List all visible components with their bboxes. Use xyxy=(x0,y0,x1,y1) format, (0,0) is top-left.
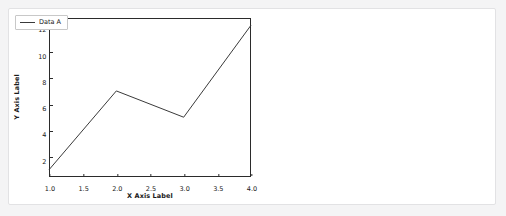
x-tick-1.5: 1.5 xyxy=(78,176,88,195)
figure-card: 246810121.01.52.02.53.03.54.0 Y Axis Lab… xyxy=(8,8,496,205)
legend-label-data-a: Data A xyxy=(39,19,61,26)
x-tick-2.0: 2.0 xyxy=(112,176,122,195)
x-tick-label: 2.0 xyxy=(112,183,122,193)
x-tick-label: 3.5 xyxy=(213,183,223,193)
x-tick-label: 3.0 xyxy=(179,183,189,193)
y-axis-label: Y Axis Label xyxy=(13,74,21,120)
legend-line-swatch-data-a xyxy=(20,22,35,23)
screenshot-root: 246810121.01.52.02.53.03.54.0 Y Axis Lab… xyxy=(0,0,506,216)
line-series-svg xyxy=(49,18,251,177)
x-tick-label: 1.5 xyxy=(78,183,88,193)
x-axis-label: X Axis Label xyxy=(127,192,173,200)
x-tick-3.5: 3.5 xyxy=(213,176,223,195)
x-tick-3.0: 3.0 xyxy=(179,176,189,195)
x-tick-label: 4.0 xyxy=(247,183,257,193)
line-series-data-a xyxy=(49,25,251,170)
chart-axes-area: 246810121.01.52.02.53.03.54.0 Y Axis Lab… xyxy=(9,9,497,206)
x-tick-label: 1.0 xyxy=(45,183,55,193)
x-tick-mark xyxy=(252,174,253,177)
x-tick-1.0: 1.0 xyxy=(45,176,55,195)
x-tick-4.0: 4.0 xyxy=(247,176,257,195)
x-tick-label: 2.5 xyxy=(146,183,156,193)
chart-legend: Data A xyxy=(15,15,68,30)
